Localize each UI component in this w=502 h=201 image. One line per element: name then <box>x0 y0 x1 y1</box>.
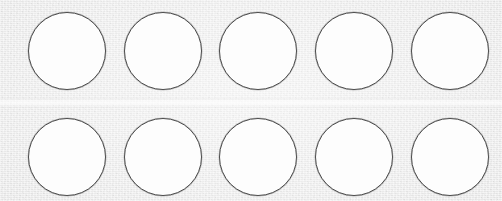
bubble-r1c2[interactable]: row 1 bubble 2 <box>124 12 202 90</box>
bubble-label: row 2 bubble 2 <box>125 119 126 120</box>
bubble-row: row 1 bubble 1row 1 bubble 2row 1 bubble… <box>0 12 502 90</box>
bubble-r2c3[interactable]: row 2 bubble 3 <box>219 118 297 196</box>
bubble-label: row 1 bubble 2 <box>125 13 126 14</box>
bubble-grid: row 1 bubble 1row 1 bubble 2row 1 bubble… <box>0 0 502 201</box>
bubble-label: row 1 bubble 4 <box>316 13 317 14</box>
bubble-r2c2[interactable]: row 2 bubble 2 <box>124 118 202 196</box>
bubble-label: row 2 bubble 3 <box>220 119 221 120</box>
bubble-r2c4[interactable]: row 2 bubble 4 <box>315 118 393 196</box>
bubble-label: row 2 bubble 4 <box>316 119 317 120</box>
bubble-r1c3[interactable]: row 1 bubble 3 <box>219 12 297 90</box>
bubble-r1c1[interactable]: row 1 bubble 1 <box>28 12 106 90</box>
bubble-label: row 1 bubble 3 <box>220 13 221 14</box>
bubble-label: row 2 bubble 1 <box>29 119 30 120</box>
bubble-r1c5[interactable]: row 1 bubble 5 <box>411 12 489 90</box>
bubble-grid-sheet: row 1 bubble 1row 1 bubble 2row 1 bubble… <box>0 0 502 201</box>
bubble-row: row 2 bubble 1row 2 bubble 2row 2 bubble… <box>0 118 502 196</box>
bubble-r1c4[interactable]: row 1 bubble 4 <box>315 12 393 90</box>
bubble-r2c5[interactable]: row 2 bubble 5 <box>411 118 489 196</box>
bubble-label: row 1 bubble 5 <box>412 13 413 14</box>
bubble-label: row 1 bubble 1 <box>29 13 30 14</box>
bubble-label: row 2 bubble 5 <box>412 119 413 120</box>
bubble-r2c1[interactable]: row 2 bubble 1 <box>28 118 106 196</box>
